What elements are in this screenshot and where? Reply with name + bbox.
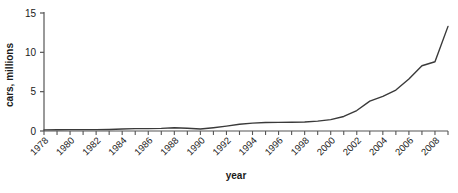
y-axis-tick-label: 15: [25, 8, 37, 19]
data-line-cars: [44, 26, 448, 130]
x-axis-tick-label: 1978: [28, 135, 51, 158]
y-axis: 051015: [25, 8, 44, 137]
x-axis-tick-label: 2000: [314, 135, 337, 158]
y-axis-tick-label: 10: [25, 47, 37, 58]
x-axis-tick-label: 1986: [132, 135, 155, 158]
x-axis-tick-label: 1992: [210, 135, 233, 158]
x-axis-tick-label: 1994: [236, 135, 259, 158]
x-axis-tick-label: 1982: [80, 135, 103, 158]
x-axis-tick-label: 1998: [288, 135, 311, 158]
x-axis-tick-label: 1996: [262, 135, 285, 158]
x-axis-tick-label: 2008: [419, 135, 442, 158]
chart-canvas: 051015 197819801982198419861988199019921…: [0, 0, 458, 193]
x-axis-tick-label: 2004: [367, 135, 390, 158]
x-axis-tick-label: 1984: [106, 135, 129, 158]
x-axis-tick-label: 1980: [54, 135, 77, 158]
data-series-group: [44, 26, 448, 130]
x-axis-tick-label: 1990: [184, 135, 207, 158]
line-chart: 051015 197819801982198419861988199019921…: [0, 0, 458, 193]
x-axis-title: year: [226, 170, 247, 181]
x-axis: 1978198019821984198619881990199219941996…: [28, 131, 448, 157]
x-axis-tick-label: 1988: [158, 135, 181, 158]
y-axis-title: cars, millions: [4, 43, 15, 107]
x-axis-tick-label: 2006: [393, 135, 416, 158]
y-axis-tick-label: 0: [30, 126, 36, 137]
x-axis-tick-label: 2002: [340, 135, 363, 158]
y-axis-tick-label: 5: [30, 86, 36, 97]
